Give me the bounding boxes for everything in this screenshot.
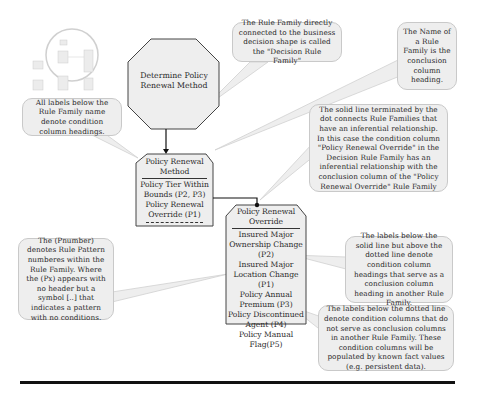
rule-family-policy-renewal-method: Policy Renewal Method Policy Tier Within… bbox=[136, 157, 213, 223]
rule-family-policy-renewal-override: Policy Renewal Override Insured Major Ow… bbox=[226, 207, 306, 350]
callout-below-dotted: The labels below the dotted line denote … bbox=[318, 305, 454, 371]
horizontal-rule bbox=[20, 381, 455, 384]
condition-label: Policy Tier Within Bounds (P2, P3) bbox=[136, 180, 213, 200]
callout-decision-rule-family: The Rule Family directly connected to th… bbox=[232, 22, 342, 62]
callout-solid-line: The solid line terminated by the dot con… bbox=[309, 104, 448, 192]
solid-divider bbox=[232, 228, 300, 229]
condition-label: Insured Major Ownership Change (P2) bbox=[226, 230, 306, 260]
thumbnail-overview bbox=[33, 29, 98, 90]
condition-label: Policy Discontinued Agent (P4) bbox=[226, 310, 306, 330]
condition-label: Policy Annual Premium (P3) bbox=[226, 290, 306, 310]
callout-name-conclusion: The Name of a Rule Family is the conclus… bbox=[397, 22, 457, 90]
callout-above-dotted: The labels below the solid line but abov… bbox=[345, 236, 453, 303]
pointer-pnumber bbox=[112, 274, 228, 302]
solid-divider bbox=[142, 178, 207, 179]
condition-label: Insured Major Location Change (P1) bbox=[226, 260, 306, 290]
dotted-divider bbox=[146, 222, 203, 223]
callout-labels-below: All labels below the Rule Family name de… bbox=[22, 98, 122, 136]
condition-label: Policy Renewal Override (P1) bbox=[136, 200, 213, 220]
callout-pnumber: The (Pnumber) denotes Rule Pattern numbe… bbox=[18, 238, 114, 320]
decision-label: Determine Policy Renewal Method bbox=[134, 71, 214, 91]
rule-family-name: Policy Renewal Override bbox=[226, 207, 306, 227]
condition-label: Policy Manual Flag(P5) bbox=[226, 330, 306, 350]
pointer-solid-line bbox=[260, 144, 314, 200]
inferential-connector bbox=[213, 198, 257, 205]
rule-family-name: Policy Renewal Method bbox=[136, 157, 213, 177]
